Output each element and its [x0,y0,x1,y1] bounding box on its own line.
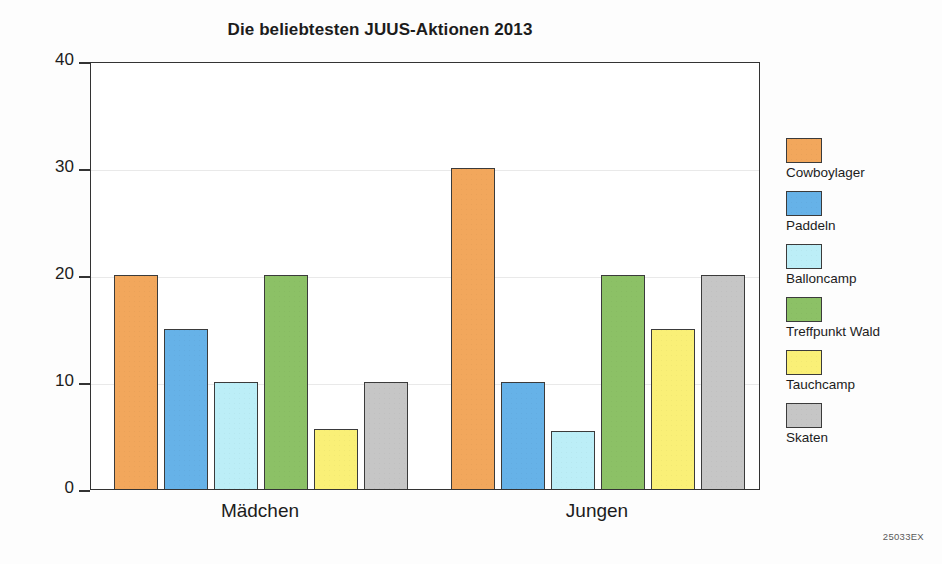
y-axis-tick-mark [79,62,90,64]
y-axis: 010203040 [0,50,90,510]
bar [501,382,545,489]
legend-swatch [786,138,822,163]
legend-label: Treffpunkt Wald [786,324,936,339]
y-axis-tick: 0 [0,490,90,491]
x-axis-group-label: Mädchen [113,500,407,522]
bar [164,329,208,490]
y-axis-tick-mark [79,169,90,171]
bar [264,275,308,489]
y-axis-tick: 10 [0,383,90,384]
bar [114,275,158,489]
legend-swatch [786,403,822,428]
legend-item[interactable]: Skaten [786,403,936,445]
corner-code-label: 25033EX [883,531,924,542]
bars-layer [91,63,759,489]
legend-item[interactable]: Tauchcamp [786,350,936,392]
bar [601,275,645,489]
y-axis-tick-label: 30 [55,157,74,177]
chart-legend: CowboylagerPaddelnBalloncampTreffpunkt W… [786,138,936,456]
legend-item[interactable]: Treffpunkt Wald [786,297,936,339]
legend-item[interactable]: Cowboylager [786,138,936,180]
plot-area [90,62,760,490]
legend-label: Tauchcamp [786,377,936,392]
y-axis-tick-label: 10 [55,371,74,391]
chart-figure: Die beliebtesten JUUS-Aktionen 2013 0102… [0,0,942,564]
legend-label: Skaten [786,430,936,445]
bar [701,275,745,489]
legend-swatch [786,244,822,269]
y-axis-tick: 40 [0,62,90,63]
legend-label: Cowboylager [786,165,936,180]
bar [364,382,408,489]
legend-item[interactable]: Balloncamp [786,244,936,286]
y-axis-tick: 30 [0,169,90,170]
y-axis-tick: 20 [0,276,90,277]
legend-swatch [786,350,822,375]
bar [451,168,495,489]
legend-label: Paddeln [786,218,936,233]
y-axis-tick-mark [79,276,90,278]
y-axis-tick-mark [79,490,90,492]
y-axis-tick-label: 0 [65,478,74,498]
x-axis-group-label: Jungen [450,500,744,522]
legend-label: Balloncamp [786,271,936,286]
bar [551,431,595,489]
y-axis-tick-label: 20 [55,264,74,284]
y-axis-tick-label: 40 [55,50,74,70]
chart-title: Die beliebtesten JUUS-Aktionen 2013 [0,20,760,40]
bar [651,329,695,490]
legend-swatch [786,297,822,322]
legend-item[interactable]: Paddeln [786,191,936,233]
bar [314,429,358,489]
bar [214,382,258,489]
y-axis-tick-mark [79,383,90,385]
legend-swatch [786,191,822,216]
